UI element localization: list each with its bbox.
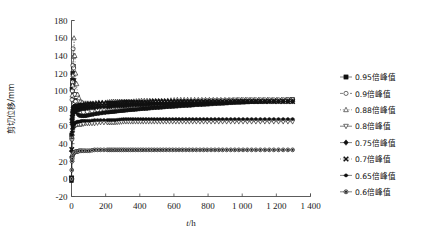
chart-figure: -20020406080100120140160180 020040060080… [0, 0, 426, 236]
legend-label: 0.65倍峰值 [355, 171, 396, 181]
y-tick-label: 60 [59, 121, 69, 131]
x-tick-label: 1 400 [300, 201, 321, 211]
legend-marker-filled-square-icon [344, 75, 348, 79]
legend-marker-filled-circle-icon [344, 190, 348, 194]
y-tick-label: -20 [56, 192, 68, 202]
x-tick-label: 1 000 [232, 201, 253, 211]
x-tick-label: 600 [167, 201, 181, 211]
legend-marker-open-circle-icon [344, 91, 348, 95]
shear-displacement-chart: -20020406080100120140160180 020040060080… [0, 0, 426, 236]
legend-label: 0.7倍峰值 [355, 154, 391, 164]
y-tick-label: 80 [59, 104, 69, 114]
y-tick-label: 180 [54, 16, 68, 26]
y-tick-label: 20 [59, 157, 69, 167]
y-tick-label: 0 [63, 174, 68, 184]
x-tick-label: 1 200 [266, 201, 287, 211]
x-tick-label: 400 [133, 201, 147, 211]
x-axis-title: t/h [186, 218, 196, 228]
x-tick-label: 0 [69, 201, 74, 211]
x-tick-label: 200 [99, 201, 113, 211]
y-axis-title: 剪切位移/mm [6, 83, 16, 133]
legend-label: 0.9倍峰值 [355, 89, 391, 99]
y-tick-label: 40 [59, 139, 69, 149]
legend-label: 0.88倍峰值 [355, 105, 396, 115]
legend-label: 0.8倍峰值 [355, 121, 391, 131]
x-tick-label: 800 [201, 201, 215, 211]
y-axis-title-text: 剪切位移/mm [6, 83, 16, 133]
y-tick-label: 120 [54, 69, 68, 79]
y-tick-label: 140 [54, 51, 68, 61]
y-tick-label: 100 [54, 86, 68, 96]
legend-label: 0.75倍峰值 [355, 138, 396, 148]
legend-label: 0.6倍峰值 [355, 187, 391, 197]
legend-label: 0.95倍峰值 [355, 72, 396, 82]
y-tick-label: 160 [54, 33, 68, 43]
